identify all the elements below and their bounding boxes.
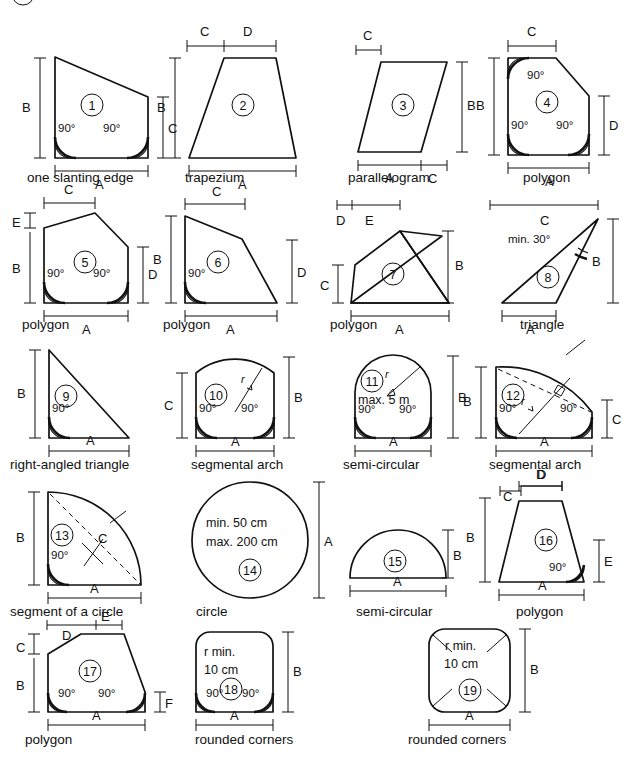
dim-label-c-16: C [503,489,512,504]
dim-label-e-16: E [604,554,613,569]
dim-label-b-5: B [12,261,21,276]
dim-label-b-7: B [455,258,464,273]
angle-label-90-1a: 90° [58,122,75,134]
angle-label-90-16: 90° [549,561,566,573]
angle-label-90-17b: 90° [98,687,115,699]
figure-15: B A 15 semi-circular [350,530,462,619]
figure-number-17: 17 [83,665,97,679]
dim-label-c-13: C [98,531,107,546]
angle-label-90-10b: 90° [241,402,258,414]
dim-label-c-6: C [212,184,221,199]
figure-number-1: 1 [89,99,96,113]
dim-label-b-18: B [293,664,302,679]
dim-label-c-1: C [168,121,177,136]
figure-caption-16: polygon [516,604,563,619]
angle-label-90-11a: 90° [358,403,375,415]
figure-19: B A r min. 10 cm 19 rounded corners [408,629,539,747]
figure-number-15: 15 [388,555,402,569]
figure-caption-11: semi-circular [343,457,420,472]
figure-1: B C A 90° 90° 1 one slanting edge [22,57,177,192]
figure-caption-15: semi-circular [356,604,433,619]
dim-label-d-4: D [609,118,618,133]
angle-label-90-4c: 90° [556,119,573,131]
dim-label-b-13: B [16,530,25,545]
note-max-200cm-14: max. 200 cm [206,535,278,549]
dim-label-e-5: E [12,215,21,230]
angle-label-90-4b: 90° [511,119,528,131]
dim-label-a-18: A [230,708,239,723]
figure-number-5: 5 [82,256,89,270]
dim-label-d-6: D [297,265,306,280]
dim-label-a-12: A [540,434,549,449]
dim-label-a-15: A [393,574,402,589]
dim-label-b-12: B [463,394,472,409]
figure-caption-19: rounded corners [408,732,507,747]
figure-caption-17: polygon [25,732,72,747]
dim-label-a-14: A [324,534,333,549]
figure-16: B C D E A 90° 16 polygon [466,467,613,619]
dim-label-c-7: C [320,278,329,293]
dim-label-b-10: B [294,390,303,405]
note-10cm-19: 10 cm [444,657,478,671]
figure-13: B A C 90° 13 segment of a circle [10,492,141,619]
figure-17: C B D E F A 90° 90° 17 polygon [16,609,173,747]
figure-10: C B A r 90° 90° 10 segmental arch [164,357,303,472]
dim-label-e-7: E [365,213,374,228]
dim-label-e-17: E [101,609,110,624]
figure-number-10: 10 [209,389,223,403]
angle-label-90-17a: 90° [58,687,75,699]
dim-label-c-8: C [540,213,549,228]
figure-number-19: 19 [463,684,477,698]
dim-label-d-2: D [243,24,252,39]
figure-9: B A 90° 9 right-angled triangle [10,350,129,472]
dim-label-b-1: B [22,100,31,115]
angle-label-90-12b: 90° [560,402,577,414]
dim-label-c-5: C [64,182,73,197]
page-top-marker [12,0,34,5]
figure-caption-6: polygon [163,317,210,332]
note-rmin-18: r min. [204,645,235,659]
dim-label-c-12: C [612,412,621,427]
dim-label-b-8: B [592,254,601,269]
figure-6: B C D A 90° 6 polygon [153,184,306,337]
figure-4: B C D A 90° 90° 90° 4 polygon [476,24,618,189]
figure-5: E B C D A 90° 90° 5 polygon [12,182,157,337]
figure-caption-7: polygon [330,317,377,332]
figure-number-3: 3 [400,99,407,113]
dim-label-a-11: A [389,434,398,449]
dim-label-c-4: C [527,24,536,39]
dim-label-b-2: B [157,100,166,115]
figure-caption-8: triangle [520,317,564,332]
figure-caption-14: circle [196,604,228,619]
figure-number-6: 6 [215,256,222,270]
figure-number-9: 9 [63,390,70,404]
dim-label-c-17: C [16,640,25,655]
dim-label-c-2: C [200,24,209,39]
figure-number-11: 11 [366,375,379,389]
figure-caption-12: segmental arch [489,457,581,472]
dim-label-c-3-top: C [363,28,372,43]
dim-label-b-16: B [466,530,475,545]
figure-caption-3: parallelogram [348,170,430,185]
angle-label-90-12a: 90° [499,402,516,414]
angle-label-90-6: 90° [188,267,205,279]
dim-label-b-6: B [153,252,162,267]
figure-caption-5: polygon [22,317,69,332]
figure-number-4: 4 [544,96,551,110]
dim-label-f-17: F [165,696,173,711]
figure-number-8: 8 [545,271,552,285]
figure-3: B C A C 3 parallelogram [348,28,476,186]
dim-label-b-9: B [17,386,26,401]
note-min-50cm-14: min. 50 cm [206,516,267,530]
dim-label-a-10: A [231,434,240,449]
dim-label-a-17: A [92,708,101,723]
dim-label-b-17: B [16,678,25,693]
dim-label-a-6: A [226,322,235,337]
angle-label-90-5b: 90° [93,267,110,279]
figure-number-16: 16 [539,534,553,548]
angle-label-90-13: 90° [51,549,68,561]
figure-7: B C D E A 7 polygon [320,200,464,337]
figure-2: B C D A 2 trapezium [157,24,296,192]
figure-caption-18: rounded corners [195,732,294,747]
radius-label-r-11: r [385,368,390,380]
